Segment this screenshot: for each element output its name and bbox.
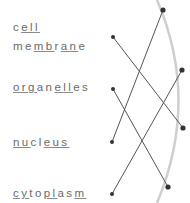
connection-line [112,10,163,142]
connection-dots [110,7,186,196]
matching-diagram [0,0,190,203]
left-dot-nucleus[interactable] [110,140,114,144]
connection-line [112,70,182,194]
right-dot-2[interactable] [180,125,185,130]
right-dot-1[interactable] [179,67,184,72]
connection-line [113,89,168,187]
right-dot-0[interactable] [160,7,165,12]
right-dot-3[interactable] [165,184,170,189]
connection-lines [112,10,183,194]
left-dot-organelles[interactable] [111,87,115,91]
left-dot-cell-membrane[interactable] [111,35,115,39]
left-dot-cytoplasm[interactable] [110,192,114,196]
